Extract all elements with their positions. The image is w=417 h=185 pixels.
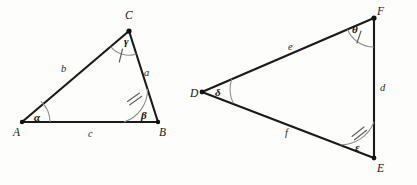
vertex-label-B: B (159, 127, 166, 139)
angle-label-alpha: α (34, 112, 40, 123)
side-label-b: b (61, 64, 66, 75)
figure-canvas: A B C a b c α β γ D E F d e f δ ε θ (0, 0, 417, 185)
angle-label-gamma: γ (124, 36, 129, 47)
angle-arc-delta (230, 79, 233, 103)
angle-tick-gamma-1 (119, 49, 122, 62)
vertex-dot-B (156, 120, 160, 124)
angle-label-delta: δ (215, 87, 221, 98)
vertex-label-E: E (377, 163, 384, 175)
vertex-label-A: A (13, 127, 20, 139)
angle-arc-gamma (111, 47, 137, 56)
vertex-label-C: C (125, 10, 133, 22)
side-label-f: f (285, 128, 288, 139)
vertex-dot-E (372, 156, 377, 161)
angle-label-epsilon: ε (355, 142, 360, 153)
side-line-f (202, 92, 374, 158)
vertex-dot-D (200, 90, 205, 95)
angle-tick-beta-2 (130, 96, 142, 105)
side-line-e (202, 18, 374, 92)
vertex-dot-A (20, 120, 24, 124)
side-label-e: e (288, 42, 293, 53)
vertex-dot-C (126, 28, 131, 33)
vertex-dot-F (371, 15, 376, 20)
angle-tick-epsilon-1 (352, 127, 364, 137)
angle-label-theta: θ (352, 24, 358, 35)
side-label-c: c (88, 129, 93, 140)
angle-tick-beta-1 (128, 93, 140, 102)
vertex-label-D: D (190, 88, 198, 100)
side-label-a: a (144, 68, 149, 79)
vertex-label-F: F (377, 6, 384, 18)
angle-label-beta: β (141, 110, 147, 121)
side-label-d: d (380, 83, 385, 94)
side-line-b (22, 31, 129, 122)
